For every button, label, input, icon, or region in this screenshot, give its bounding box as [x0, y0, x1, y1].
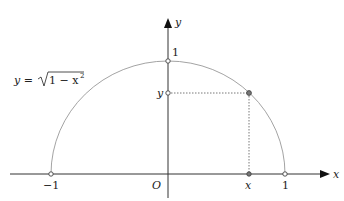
equation-lhs: y = [13, 74, 36, 87]
point-x-value [247, 172, 251, 176]
equation-radicand: 1 − x [49, 74, 79, 87]
tick-label-x-neg-one: −1 [43, 179, 59, 192]
semicircle-diagram: y x O −1 1 x 1 y y = 1 − x 2 [0, 0, 344, 201]
tick-label-x-point: x [245, 179, 252, 192]
origin-label: O [152, 179, 161, 192]
point-y-value [166, 91, 170, 95]
y-axis-label: y [174, 16, 182, 29]
x-axis-arrow-icon [320, 170, 330, 178]
point-y-one [166, 59, 170, 63]
tick-label-x-one: 1 [282, 179, 289, 192]
point-x-one [283, 172, 287, 176]
curve-equation-label: y = 1 − x 2 [13, 72, 84, 87]
tick-label-y-one: 1 [172, 46, 179, 59]
point-x-neg-one [49, 172, 53, 176]
y-axis-arrow-icon [164, 18, 172, 28]
x-axis-label: x [333, 168, 340, 181]
point-on-curve [247, 91, 252, 96]
equation-exponent: 2 [80, 72, 84, 80]
tick-label-y-point: y [156, 87, 164, 100]
